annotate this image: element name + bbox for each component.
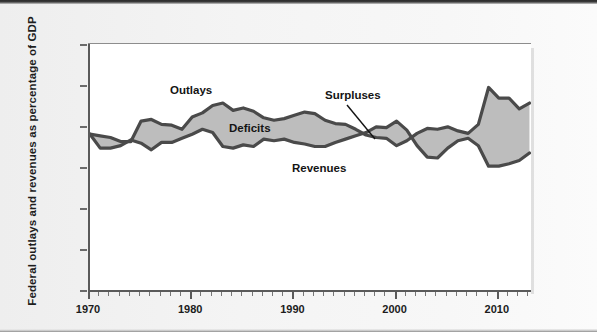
surpluses-leader-line (0, 0, 597, 332)
figure-page: Federal outlays and revenues as percenta… (0, 0, 597, 332)
